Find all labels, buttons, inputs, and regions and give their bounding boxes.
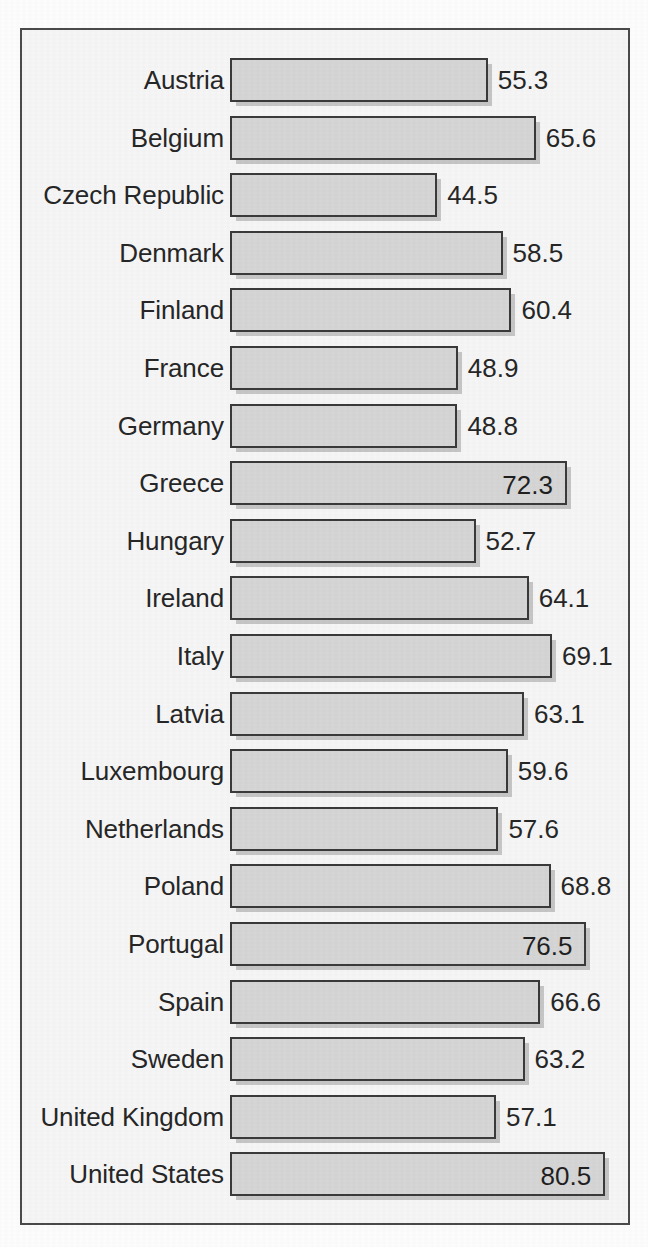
bar-value-label: 52.7 [476,519,537,563]
category-label: Sweden [131,1037,224,1081]
bar-row: Italy69.1 [22,634,628,678]
bar[interactable] [230,519,476,563]
bar-value-label: 48.9 [458,346,519,390]
category-label: Austria [144,58,224,102]
category-label: Portugal [128,922,224,966]
bar-value-label: 57.6 [498,807,559,851]
bar[interactable] [230,58,488,102]
bar-value-label: 60.4 [511,288,572,332]
bar-value-label: 72.3 [502,463,553,507]
bar-container: 64.1 [230,576,529,620]
bar-value-label: 59.6 [508,749,569,793]
category-label: Spain [158,980,224,1024]
category-label: Latvia [155,692,224,736]
bar-row: Spain66.6 [22,980,628,1024]
bar[interactable] [230,173,437,217]
category-label: Belgium [131,116,224,160]
bar-row: Luxembourg59.6 [22,749,628,793]
bar-container: 59.6 [230,749,508,793]
bar-container: 68.8 [230,864,551,908]
bar-container: 66.6 [230,980,540,1024]
bar-row: United Kingdom57.1 [22,1095,628,1139]
bar-container: 63.2 [230,1037,525,1081]
bar-container: 72.3 [230,461,567,505]
bar[interactable] [230,749,508,793]
bar-value-label: 63.2 [525,1037,586,1081]
bar[interactable] [230,404,457,448]
bar-row: Belgium65.6 [22,116,628,160]
bar-container: 69.1 [230,634,552,678]
bar[interactable]: 76.5 [230,922,586,966]
bar-container: 63.1 [230,692,524,736]
bar[interactable] [230,576,529,620]
bar-value-label: 58.5 [503,231,564,275]
bar-row: Denmark58.5 [22,231,628,275]
category-label: Poland [144,864,224,908]
bar[interactable] [230,231,503,275]
bar-row: Netherlands57.6 [22,807,628,851]
bar-row: Poland68.8 [22,864,628,908]
bar-row: Sweden63.2 [22,1037,628,1081]
bar-row: Ireland64.1 [22,576,628,620]
bar-row: Austria55.3 [22,58,628,102]
bar-container: 60.4 [230,288,511,332]
chart-frame: Austria55.3Belgium65.6Czech Republic44.5… [20,28,630,1225]
plot-area: Austria55.3Belgium65.6Czech Republic44.5… [22,30,628,1223]
bar-container: 80.5 [230,1152,605,1196]
bar-value-label: 66.6 [540,980,601,1024]
bar[interactable] [230,980,540,1024]
bar-value-label: 65.6 [536,116,597,160]
category-label: United States [69,1152,224,1196]
bar[interactable] [230,346,458,390]
bar[interactable] [230,116,536,160]
category-label: Luxembourg [80,749,224,793]
category-label: Greece [139,461,224,505]
bar-container: 65.6 [230,116,536,160]
bar-container: 52.7 [230,519,476,563]
bar[interactable] [230,807,498,851]
category-label: Czech Republic [43,173,224,217]
bar-value-label: 44.5 [437,173,498,217]
bar-value-label: 76.5 [522,924,573,968]
bar[interactable] [230,864,551,908]
bar-value-label: 69.1 [552,634,613,678]
bar-container: 57.1 [230,1095,496,1139]
bar[interactable] [230,1037,525,1081]
bar-container: 44.5 [230,173,437,217]
category-label: Italy [177,634,224,678]
category-label: France [144,346,224,390]
bar-value-label: 80.5 [541,1154,592,1198]
bar-row: Czech Republic44.5 [22,173,628,217]
bar[interactable] [230,1095,496,1139]
bar-container: 48.9 [230,346,458,390]
bar[interactable]: 72.3 [230,461,567,505]
bar-row: Latvia63.1 [22,692,628,736]
bar[interactable] [230,288,511,332]
bar-container: 58.5 [230,231,503,275]
bar-container: 55.3 [230,58,488,102]
bar-value-label: 57.1 [496,1095,557,1139]
category-label: United Kingdom [40,1095,224,1139]
bar-row: Portugal76.5 [22,922,628,966]
category-label: Hungary [126,519,224,563]
category-label: Germany [118,404,224,448]
bar[interactable] [230,692,524,736]
bar-row: France48.9 [22,346,628,390]
bar-row: Germany48.8 [22,404,628,448]
bar-row: Hungary52.7 [22,519,628,563]
category-label: Finland [139,288,224,332]
bar[interactable] [230,634,552,678]
category-label: Denmark [119,231,224,275]
bar-row: United States80.5 [22,1152,628,1196]
bar[interactable]: 80.5 [230,1152,605,1196]
bar-container: 76.5 [230,922,586,966]
bar-container: 48.8 [230,404,457,448]
bar-row: Greece72.3 [22,461,628,505]
bar-value-label: 63.1 [524,692,585,736]
category-label: Netherlands [85,807,224,851]
bar-value-label: 48.8 [457,404,518,448]
chart-page: Austria55.3Belgium65.6Czech Republic44.5… [0,0,648,1247]
category-label: Ireland [145,576,224,620]
bar-value-label: 68.8 [551,864,612,908]
bar-value-label: 64.1 [529,576,590,620]
